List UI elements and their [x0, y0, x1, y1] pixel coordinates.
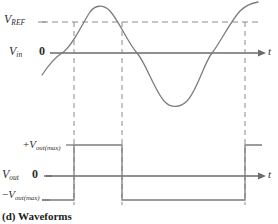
vout-max-positive-subscript: out(max) — [36, 144, 61, 151]
waveform-canvas — [0, 0, 278, 224]
vout-label-subscript: out — [9, 173, 19, 182]
vout-max-positive-base: V — [29, 138, 36, 150]
vout-max-positive-label: +Vout(max) — [23, 139, 61, 151]
output-square-wave — [42, 145, 262, 200]
vout-max-negative-base: V — [8, 188, 15, 200]
time-axis-label-top: t — [268, 46, 271, 57]
vin-axis-arrowhead — [258, 50, 266, 57]
vout-max-negative-subscript: out(max) — [15, 194, 40, 201]
vref-label-subscript: REF — [11, 18, 25, 27]
vout-zero-label: 0 — [32, 168, 38, 180]
figure-caption: (d) Waveforms — [2, 210, 72, 222]
vout-max-negative-label: −Vout(max) — [2, 189, 40, 201]
waveforms-figure: VREF Vin 0 Vout 0 +Vout(max) −Vout(max) … — [0, 0, 278, 224]
vin-label-subscript: in — [16, 50, 22, 59]
vin-zero-label: 0 — [39, 45, 45, 57]
vref-label: VREF — [4, 13, 25, 26]
vin-label: Vin — [9, 45, 22, 58]
input-sine-curve — [42, 2, 258, 106]
vout-axis-arrowhead — [258, 173, 266, 180]
vout-label: Vout — [2, 168, 19, 181]
time-axis-label-bottom: t — [268, 169, 271, 180]
